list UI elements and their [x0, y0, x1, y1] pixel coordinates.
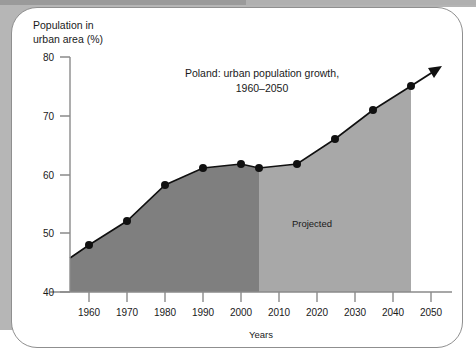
x-tick-label: 1980: [154, 307, 177, 318]
y-tick-label: 50: [43, 228, 55, 239]
y-tick-label: 80: [43, 52, 55, 63]
y-axis-title-line1: Population in: [33, 18, 103, 32]
x-tick-label: 2010: [268, 307, 291, 318]
trend-arrow-head: [428, 66, 442, 78]
figure-root: 80 70 60 50 40 1960 1970 1980 1990 2000 …: [0, 0, 476, 356]
y-tick-label: 70: [43, 111, 55, 122]
y-axis-title: Population in urban area (%): [33, 18, 103, 46]
chart-panel: 80 70 60 50 40 1960 1970 1980 1990 2000 …: [11, 7, 463, 348]
data-point: [369, 106, 377, 114]
chart-title-line1: Poland: urban population growth,: [132, 66, 392, 81]
data-point: [293, 160, 301, 168]
top-gray-band-right: [246, 0, 476, 5]
x-tick-label: 1960: [78, 307, 101, 318]
data-point: [255, 164, 263, 172]
data-point: [123, 217, 131, 225]
chart-title: Poland: urban population growth, 1960–20…: [132, 66, 392, 96]
x-tick-label: 2030: [344, 307, 367, 318]
x-tick-label: 2000: [230, 307, 253, 318]
x-tick-label: 2020: [306, 307, 329, 318]
data-point: [199, 164, 207, 172]
x-tick-label: 1970: [116, 307, 139, 318]
data-point: [161, 181, 169, 189]
data-point: [407, 82, 415, 90]
chart-plot-area: 80 70 60 50 40 1960 1970 1980 1990 2000 …: [12, 8, 463, 348]
data-point: [237, 160, 245, 168]
data-point: [85, 241, 93, 249]
y-tick-label: 40: [43, 287, 55, 298]
chart-title-line2: 1960–2050: [132, 81, 392, 96]
x-tick-label: 2050: [420, 307, 443, 318]
y-axis-title-line2: urban area (%): [33, 32, 103, 46]
data-point: [331, 135, 339, 143]
area-fill-projected: [259, 86, 411, 292]
y-tick-label: 60: [43, 170, 55, 181]
x-tick-label: 2040: [382, 307, 405, 318]
projected-annotation: Projected: [292, 218, 332, 229]
x-tick-label: 1990: [192, 307, 215, 318]
x-axis-title: Years: [249, 329, 273, 340]
